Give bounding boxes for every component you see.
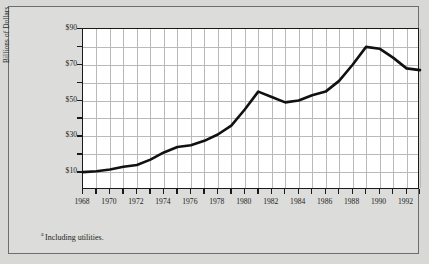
data-line [83, 29, 420, 190]
x-axis-tick [149, 189, 150, 194]
y-axis-tick-label: $30 [31, 130, 77, 139]
x-axis-tick [257, 189, 258, 194]
x-axis-tick [122, 189, 123, 194]
vertical-gridline [420, 29, 421, 188]
x-axis-tick [271, 189, 272, 194]
x-axis-tick [298, 189, 299, 194]
y-axis-labels: $10$30$50$70$90 [29, 28, 77, 189]
plot-area [82, 28, 419, 189]
figure-frame: Billions of Dollars $10$30$50$70$90 1968… [8, 6, 419, 254]
x-axis-labels: 1968197019721974197619781980198219841986… [82, 197, 419, 211]
footnote-text: Including utilities. [45, 233, 104, 242]
footnote: aIncluding utilities. [41, 231, 104, 242]
x-axis-tick [406, 189, 407, 194]
x-axis-tick [230, 189, 231, 194]
x-axis-tick [82, 189, 83, 194]
x-axis-tick [325, 189, 326, 194]
y-axis-tick-label: $70 [31, 59, 77, 68]
x-axis-ticks [82, 189, 419, 195]
x-axis-tick [365, 189, 366, 194]
x-axis-tick [244, 189, 245, 194]
x-axis-tick [352, 189, 353, 194]
x-axis-tick [109, 189, 110, 194]
x-axis-tick [203, 189, 204, 194]
y-axis-tick-label: $50 [31, 95, 77, 104]
chart-page: Billions of Dollars $10$30$50$70$90 1968… [0, 0, 429, 264]
x-axis-tick [419, 189, 420, 194]
x-axis-tick [379, 189, 380, 194]
y-axis-tick-label: $10 [31, 166, 77, 175]
x-axis-tick [95, 189, 96, 194]
x-axis-tick [176, 189, 177, 194]
y-axis-title: Billions of Dollars [3, 0, 11, 63]
x-axis-tick [190, 189, 191, 194]
x-axis-tick [284, 189, 285, 194]
x-axis-tick-label: 1992 [386, 197, 426, 206]
footnote-marker: a [41, 231, 43, 237]
y-axis-tick-label: $90 [31, 23, 77, 32]
x-axis-tick [136, 189, 137, 194]
x-axis-tick [163, 189, 164, 194]
x-axis-tick [338, 189, 339, 194]
x-axis-tick [311, 189, 312, 194]
x-axis-tick [392, 189, 393, 194]
x-axis-tick [217, 189, 218, 194]
